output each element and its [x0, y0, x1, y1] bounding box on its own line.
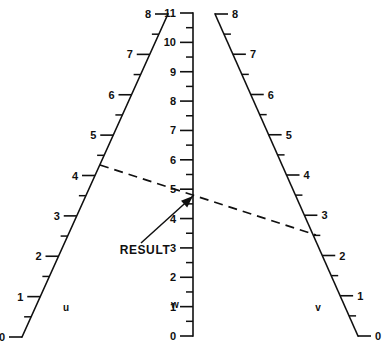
tick-label-u-2: 2	[35, 250, 41, 262]
axis-name-w: w	[170, 299, 179, 310]
tick-label-u-8: 8	[145, 8, 151, 20]
tick-label-v-7: 7	[250, 48, 256, 60]
nomogram-figure: 012345678u01234567891011w012345678v RESU…	[0, 0, 388, 349]
tick-label-w-6: 6	[170, 154, 176, 166]
tick-label-v-3: 3	[321, 209, 327, 221]
tick-label-v-4: 4	[304, 169, 311, 181]
tick-label-u-3: 3	[54, 210, 60, 222]
tick-label-w-9: 9	[170, 66, 176, 78]
tick-label-w-3: 3	[170, 242, 176, 254]
tick-label-w-0: 0	[170, 330, 176, 342]
tick-label-w-11: 11	[164, 7, 176, 19]
tick-label-u-0: 0	[0, 331, 5, 343]
axis-u: 012345678u	[0, 8, 168, 343]
axis-name-v: v	[315, 302, 321, 313]
axis-name-u: u	[63, 302, 69, 313]
tick-label-w-7: 7	[170, 124, 176, 136]
tick-label-v-0: 0	[375, 330, 381, 342]
tick-label-w-2: 2	[170, 271, 176, 283]
axis-v: 012345678v	[215, 8, 381, 342]
tick-label-u-1: 1	[17, 291, 23, 303]
tick-label-u-7: 7	[127, 48, 133, 60]
tick-label-u-6: 6	[108, 89, 114, 101]
index-line-group	[100, 165, 316, 235]
tick-label-w-8: 8	[170, 95, 176, 107]
tick-label-u-4: 4	[72, 170, 79, 182]
tick-label-v-6: 6	[268, 89, 274, 101]
tick-label-u-5: 5	[90, 129, 96, 141]
tick-label-w-10: 10	[164, 36, 176, 48]
result-label: RESULT	[120, 243, 171, 257]
tick-label-v-1: 1	[357, 290, 363, 302]
nomogram-canvas: 012345678u01234567891011w012345678v RESU…	[0, 0, 388, 349]
axes-group: 012345678u01234567891011w012345678v	[0, 7, 381, 343]
index-line-dashed	[100, 165, 316, 235]
axis-w: 01234567891011w	[164, 7, 193, 342]
tick-label-v-2: 2	[339, 250, 345, 262]
tick-label-v-8: 8	[232, 8, 238, 20]
tick-label-v-5: 5	[286, 129, 292, 141]
